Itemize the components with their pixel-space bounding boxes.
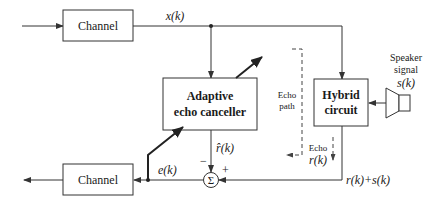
- adaptive-label-line2: echo canceller: [174, 105, 247, 119]
- echo-label-line1: Echo: [309, 143, 328, 153]
- summer-symbol: Σ: [208, 174, 214, 186]
- hybrid-label-line1: Hybrid: [322, 88, 360, 102]
- top-signal-path: Channel x(k): [22, 9, 342, 79]
- echo-path: Echo path: [278, 49, 302, 155]
- bottom-signal-path: + Σ e(k) Channel: [24, 127, 342, 195]
- adaptive-label-line1: Adaptive: [187, 89, 234, 103]
- echo-path-label-line2: path: [279, 101, 295, 111]
- plus-sign: +: [222, 163, 229, 177]
- channel-bottom-label: Channel: [78, 173, 119, 187]
- adaptive-block: [163, 78, 257, 130]
- echo-label-line2: r(k): [309, 153, 327, 167]
- speaker-label-line3: s(k): [397, 76, 415, 90]
- e-signal-label: e(k): [158, 163, 177, 177]
- x-signal-label: x(k): [165, 9, 185, 23]
- speaker: Speaker signal s(k): [369, 52, 423, 118]
- hybrid-label-line2: circuit: [324, 103, 357, 117]
- echo-canceller-diagram: Channel x(k) Adaptive echo canceller r̂(…: [0, 0, 442, 204]
- r-plus-s-label: r(k)+s(k): [346, 173, 390, 187]
- minus-sign: −: [200, 154, 207, 168]
- echo-path-label-line1: Echo: [278, 90, 297, 100]
- adaptation-arrow-out: [236, 57, 262, 78]
- channel-top-label: Channel: [78, 19, 119, 33]
- speaker-body-icon: [399, 95, 410, 111]
- speaker-cone-icon: [386, 88, 399, 118]
- speaker-label-line1: Speaker: [390, 52, 423, 63]
- adaptive-echo-canceller: Adaptive echo canceller r̂(k) −: [163, 57, 262, 172]
- r-hat-label: r̂(k): [216, 141, 234, 155]
- speaker-label-line2: signal: [394, 64, 418, 75]
- hybrid-circuit: Hybrid circuit Echo r(k) r(k)+s(k): [309, 79, 390, 187]
